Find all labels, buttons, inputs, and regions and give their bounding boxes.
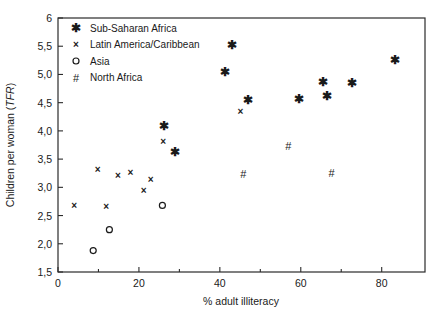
data-point-star: ✱ [227,38,237,52]
data-point-star: ✱ [170,145,180,159]
data-point-star: ✱ [220,65,230,79]
data-point-x: × [148,174,154,185]
series-star: ✱✱✱✱✱✱✱✱✱✱ [159,38,400,159]
series-x: ××××××××× [71,106,243,212]
data-point-star: ✱ [243,93,253,107]
data-point-x: × [95,164,101,175]
data-point-x: × [128,167,134,178]
data-point-x: × [238,106,244,117]
x-tick-label: 0 [55,277,61,289]
plot-canvas: 020406080 1,52,02,53,03,54,04,55,05,56 ✱… [0,0,439,320]
scatter-plot-figure: 020406080 1,52,02,53,03,54,04,55,05,56 ✱… [0,0,439,320]
x-tick-label: 80 [376,277,388,289]
legend-item-x: ×Latin America/Caribbean [73,39,199,50]
y-axis-title-italic: TFR [4,86,16,107]
legend-label: North Africa [90,72,143,83]
legend-label: Asia [90,56,110,67]
y-tick-label: 6 [46,12,52,24]
x-tick-label: 60 [295,277,307,289]
y-tick-label: 5,0 [37,68,52,80]
legend-marker-star: ✱ [71,21,81,35]
data-point-hash: # [240,168,247,180]
data-points-layer: ✱✱✱✱✱✱✱✱✱✱×××××××××### [71,38,400,253]
data-point-x: × [160,136,166,147]
x-tick-label: 20 [133,277,145,289]
x-axis-title: % adult illiteracy [203,295,280,307]
series-circle [90,202,165,253]
y-tick-label: 4,0 [37,125,52,137]
legend-item-star: ✱Sub-Saharan Africa [71,21,177,35]
y-tick-label: 3,0 [37,181,52,193]
data-point-hash: # [285,140,292,152]
y-tick-label: 3,5 [37,153,52,165]
x-axis-tick-labels: 020406080 [55,277,388,289]
x-axis-ticks [58,267,382,272]
y-axis-title-tail: ) [4,83,16,87]
legend-marker-circle [73,58,79,64]
plot-frame [58,18,425,272]
data-point-x: × [115,170,121,181]
series-hash: ### [240,140,335,180]
y-axis-title-plain: Children per woman ( [4,106,16,207]
data-point-x: × [141,185,147,196]
data-point-x: × [103,201,109,212]
y-axis-title: Children per woman (TFR) [4,83,16,207]
y-tick-label: 2,0 [37,238,52,250]
data-point-hash: # [328,167,335,179]
legend-marker-x: × [73,39,79,50]
data-point-star: ✱ [347,76,357,90]
data-point-star: ✱ [322,89,332,103]
y-tick-label: 2,5 [37,210,52,222]
legend-item-circle: Asia [73,56,110,67]
data-point-star: ✱ [390,53,400,67]
y-tick-label: 5,5 [37,40,52,52]
data-point-circle [90,248,96,254]
data-point-star: ✱ [159,119,169,133]
legend-marker-hash: # [73,72,80,84]
y-axis-ticks [58,18,63,272]
data-point-star: ✱ [294,92,304,106]
data-point-star: ✱ [318,75,328,89]
y-tick-label: 4,5 [37,97,52,109]
y-axis-tick-labels: 1,52,02,53,03,54,04,55,05,56 [37,12,52,278]
legend-label: Sub-Saharan Africa [90,23,177,34]
legend-label: Latin America/Caribbean [90,39,200,50]
x-tick-label: 40 [214,277,226,289]
data-point-circle [106,227,112,233]
chart-legend: ✱Sub-Saharan Africa×Latin America/Caribb… [71,21,200,84]
legend-item-hash: #North Africa [73,72,143,84]
data-point-x: × [71,200,77,211]
y-tick-label: 1,5 [37,266,52,278]
data-point-circle [159,202,165,208]
